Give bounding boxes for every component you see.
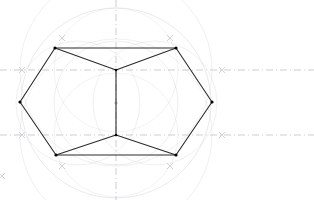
vertex-dot-inner-upper bbox=[115, 69, 117, 71]
inner-spokes-group bbox=[55, 48, 176, 155]
tick-edge-lower-left bbox=[0, 173, 5, 179]
tick-marks-group bbox=[0, 35, 225, 179]
tick-arc-lower-right bbox=[167, 163, 173, 169]
spoke-upper-left bbox=[55, 48, 116, 70]
vertex-dot-left bbox=[18, 100, 21, 103]
vertex-dot-top-right bbox=[174, 46, 177, 49]
arc-left-center bbox=[16, 41, 140, 165]
vertex-dot-right bbox=[210, 100, 213, 103]
vertex-dot-bottom-right bbox=[174, 153, 177, 156]
arc-right-center bbox=[93, 41, 217, 165]
spoke-upper-right bbox=[116, 48, 176, 70]
vertex-dot-inner-lower bbox=[115, 134, 117, 136]
vertex-dot-bottom-left bbox=[54, 153, 57, 156]
drawing-canvas bbox=[0, 0, 314, 200]
geometric-construction-figure bbox=[0, 0, 314, 200]
center-lines-group bbox=[0, 0, 314, 200]
center-point-dot bbox=[115, 102, 118, 105]
tick-arc-lower-left bbox=[59, 163, 65, 169]
vertex-dot-top-left bbox=[53, 46, 56, 49]
